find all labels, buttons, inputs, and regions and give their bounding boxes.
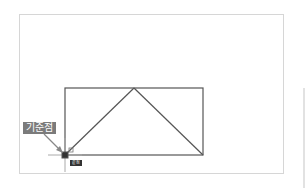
drawing-canvas[interactable]	[0, 0, 305, 188]
triangle-right-line[interactable]	[134, 88, 203, 155]
snap-tooltip: 끝점	[70, 160, 82, 166]
rectangle-shape[interactable]	[65, 88, 203, 155]
leader-arrow-icon	[44, 134, 63, 153]
triangle-left-line[interactable]	[65, 88, 134, 155]
base-point-label: 기준점	[23, 122, 56, 134]
